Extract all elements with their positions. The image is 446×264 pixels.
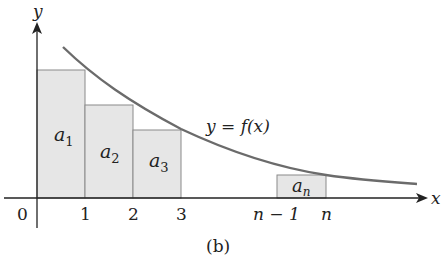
figure-caption: (b) [206,236,230,256]
rectangles [37,70,326,198]
tick-2: 2 [128,204,139,224]
tick-3: 3 [176,204,187,224]
tick-1: 1 [80,204,91,224]
origin-label: 0 [17,204,28,224]
curve-label: y = f(x) [205,116,270,136]
x-axis-label: x [431,188,441,208]
y-axis-label: y [32,1,43,21]
tick-n-minus-1: n − 1 [253,204,300,224]
diagram-canvas: y x 0 1 2 3 n − 1 n a1 a2 a3 an y = f(x)… [0,0,446,264]
tick-n: n [321,204,332,224]
